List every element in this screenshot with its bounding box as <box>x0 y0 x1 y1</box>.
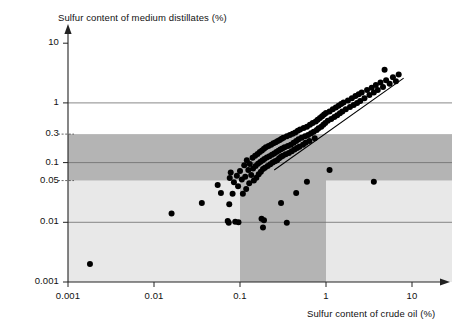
y-tick-label: 0.01 <box>40 215 59 226</box>
data-point <box>393 78 399 84</box>
data-point <box>169 211 175 217</box>
data-point <box>237 168 243 174</box>
data-point <box>293 190 299 196</box>
data-point <box>304 179 310 185</box>
y-axis-tick-marks <box>63 43 68 282</box>
chart-figure: Sulfur content of medium distillates (%)… <box>0 0 466 330</box>
x-axis-tick-marks <box>68 282 412 287</box>
data-point <box>218 190 224 196</box>
data-point <box>380 84 386 90</box>
data-point <box>371 179 377 185</box>
data-point <box>284 220 290 226</box>
data-point <box>215 182 221 188</box>
y-axis-title: Sulfur content of medium distillates (%) <box>58 12 227 23</box>
data-point <box>387 81 393 87</box>
data-point <box>396 71 402 77</box>
data-point <box>226 220 232 226</box>
x-tick-label: 0.01 <box>124 290 184 301</box>
data-point <box>235 183 241 189</box>
x-tick-label: 10 <box>382 290 442 301</box>
data-point <box>199 200 205 206</box>
shaded-regions <box>68 134 452 282</box>
data-point <box>248 172 254 178</box>
data-point <box>260 224 266 230</box>
scatter-plot-canvas <box>0 0 466 330</box>
data-point <box>230 191 236 197</box>
x-tick-label: 0.1 <box>210 290 270 301</box>
data-point <box>361 95 367 101</box>
y-tick-label: 0.3 <box>45 127 59 138</box>
data-point <box>278 200 284 206</box>
x-tick-label: 0.001 <box>38 290 98 301</box>
data-point <box>87 261 93 267</box>
data-point <box>312 135 318 141</box>
y-tick-label: 1 <box>54 96 59 107</box>
data-point <box>375 87 381 93</box>
y-tick-label: 0.05 <box>40 174 59 185</box>
data-point <box>359 89 365 95</box>
data-point <box>261 217 267 223</box>
y-tick-label: 10 <box>48 36 59 47</box>
x-axis-title: Sulfur content of crude oil (%) <box>307 308 435 319</box>
data-point <box>226 201 232 207</box>
data-point <box>235 219 241 225</box>
y-axis-arrow-icon <box>64 24 71 34</box>
data-point <box>242 174 248 180</box>
x-tick-label: 1 <box>296 290 356 301</box>
data-point <box>243 186 249 192</box>
data-point <box>241 162 247 168</box>
data-point <box>382 67 388 73</box>
data-point <box>306 138 312 144</box>
data-point <box>228 170 234 176</box>
y-tick-label: 0.1 <box>45 156 59 167</box>
y-tick-label: 0.001 <box>35 275 59 286</box>
data-point <box>327 167 333 173</box>
